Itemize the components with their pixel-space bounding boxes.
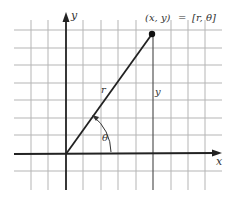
equation-left: (x, y): [145, 12, 171, 23]
radius-label: r: [101, 84, 107, 95]
angle-label: θ: [102, 132, 108, 143]
equation-equals: =: [178, 12, 186, 23]
y-axis: [63, 12, 70, 190]
radius-line: [66, 34, 152, 154]
y-axis-arrow-icon: [63, 12, 70, 22]
x-axis-label: x: [216, 155, 223, 168]
grid: [14, 20, 222, 190]
y-axis-label: y: [70, 9, 78, 22]
point-marker: [149, 31, 155, 37]
coordinate-equation: (x, y) = [r, θ]: [145, 12, 216, 23]
equation-right: [r, θ]: [192, 12, 216, 23]
polar-coordinates-diagram: y x r y θ (x, y) = [r, θ]: [0, 0, 234, 198]
vertical-leg-label: y: [154, 86, 161, 97]
